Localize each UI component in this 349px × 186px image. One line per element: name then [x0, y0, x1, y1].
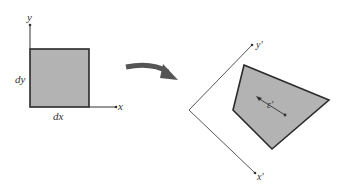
- curved-arrow-head: [160, 64, 178, 80]
- y-prime-axis-tip: [251, 44, 254, 47]
- y-axis-label: y: [26, 11, 32, 23]
- dx-label: dx: [53, 110, 64, 122]
- strain-label: ε': [267, 99, 274, 110]
- transition-arrow: [126, 64, 178, 80]
- dy-label: dy: [15, 73, 26, 85]
- right-figure: y' x' ε': [189, 39, 329, 182]
- x-prime-axis-tip: [254, 172, 257, 175]
- left-figure: y x dy dx: [15, 11, 123, 122]
- deformed-element: [233, 65, 329, 149]
- diagram-canvas: y x dy dx y' x' ε': [0, 0, 349, 186]
- y-prime-label: y': [255, 39, 263, 50]
- x-axis-label: x: [117, 100, 123, 112]
- undeformed-element: [30, 49, 89, 107]
- strain-arrow-tail: [284, 114, 287, 117]
- x-prime-label: x': [256, 171, 264, 182]
- diagram-svg: y x dy dx y' x' ε': [0, 0, 349, 186]
